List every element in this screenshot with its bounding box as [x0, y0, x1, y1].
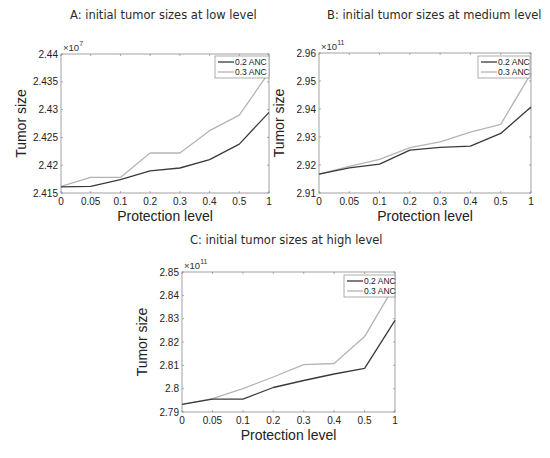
y-tick-label: 2.82	[160, 337, 180, 348]
y-tick-label: 2.85	[160, 267, 180, 278]
legend-label: 0.3 ANC	[364, 286, 396, 296]
y-tick-label: 2.91	[297, 188, 317, 199]
legend-label: 0.2 ANC	[235, 57, 267, 67]
y-axis-label: Tumor size	[134, 307, 150, 376]
y-tick-label: 2.79	[160, 407, 180, 418]
y-tick-label: 2.8	[165, 383, 179, 394]
x-tick-label: 0.2	[266, 415, 280, 426]
x-tick-label: 0.1	[373, 196, 387, 207]
x-axis-label: Protection level	[241, 427, 337, 443]
chart-c: 00.050.10.20.30.40.512.792.82.812.822.83…	[134, 258, 398, 443]
x-axis-label: Protection level	[377, 208, 473, 224]
legend-label: 0.3 ANC	[498, 67, 530, 77]
x-tick-label: 0.3	[173, 196, 187, 207]
y-multiplier: ×1011	[321, 39, 344, 52]
x-tick-label: 0.5	[358, 415, 372, 426]
legend: 0.2 ANC0.3 ANC	[215, 56, 269, 78]
x-tick-label: 0.05	[340, 196, 360, 207]
y-tick-label: 2.92	[297, 160, 317, 171]
series-line-0-2-anc	[319, 107, 531, 174]
x-tick-label: 0	[179, 415, 185, 426]
x-tick-label: 0	[316, 196, 322, 207]
x-tick-label: 0.05	[81, 196, 101, 207]
series-line-0-2-anc	[182, 320, 395, 404]
chart-canvas: 00.050.10.20.30.40.512.4152.422.4252.432…	[0, 0, 550, 458]
x-tick-label: 0.4	[327, 415, 341, 426]
legend: 0.2 ANC0.3 ANC	[344, 275, 396, 297]
y-tick-label: 2.42	[39, 160, 59, 171]
x-tick-label: 0.5	[494, 196, 508, 207]
x-tick-label: 0.5	[232, 196, 246, 207]
series-line-0-2-anc	[61, 112, 269, 186]
y-tick-label: 2.83	[160, 313, 180, 324]
series-line-0-3-anc	[319, 73, 531, 174]
x-tick-label: 0.4	[463, 196, 477, 207]
x-tick-label: 0.1	[113, 196, 127, 207]
x-tick-label: 0.3	[433, 196, 447, 207]
y-tick-label: 2.93	[297, 132, 317, 143]
y-tick-label: 2.95	[297, 76, 317, 87]
chart-a: 00.050.10.20.30.40.512.4152.422.4252.432…	[13, 40, 272, 224]
y-tick-label: 2.84	[160, 290, 180, 301]
legend-label: 0.2 ANC	[364, 276, 396, 286]
y-tick-label: 2.415	[33, 188, 58, 199]
x-tick-label: 0.4	[203, 196, 217, 207]
x-tick-label: 0.3	[297, 415, 311, 426]
y-tick-label: 2.425	[33, 132, 58, 143]
y-axis-label: Tumor size	[271, 88, 287, 157]
y-tick-label: 2.43	[39, 104, 59, 115]
y-axis-label: Tumor size	[13, 89, 29, 158]
x-tick-label: 1	[528, 196, 534, 207]
y-multiplier: ×1011	[184, 258, 207, 271]
legend: 0.2 ANC0.3 ANC	[478, 56, 530, 78]
legend-label: 0.3 ANC	[235, 67, 267, 77]
y-tick-label: 2.44	[39, 49, 59, 60]
y-tick-label: 2.96	[297, 48, 317, 59]
x-tick-label: 0.2	[403, 196, 417, 207]
y-tick-label: 2.94	[297, 104, 317, 115]
x-tick-label: 1	[392, 415, 398, 426]
x-tick-label: 0.05	[203, 415, 223, 426]
chart-b: 00.050.10.20.30.40.512.912.922.932.942.9…	[271, 39, 534, 224]
series-line-0-3-anc	[182, 285, 395, 405]
legend-label: 0.2 ANC	[498, 57, 530, 67]
y-tick-label: 2.81	[160, 360, 180, 371]
x-tick-label: 0.2	[143, 196, 157, 207]
x-tick-label: 1	[266, 196, 272, 207]
x-tick-label: 0.1	[236, 415, 250, 426]
y-multiplier: ×107	[63, 40, 83, 53]
x-axis-label: Protection level	[117, 208, 213, 224]
y-tick-label: 2.435	[33, 76, 58, 87]
x-tick-label: 0	[58, 196, 64, 207]
